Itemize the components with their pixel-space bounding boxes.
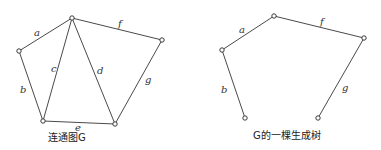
tree-edge-a xyxy=(222,16,274,50)
connected-graph-caption: 连通图G xyxy=(48,129,86,144)
tree-edge-g xyxy=(318,38,364,118)
tree-edge-label-f: f xyxy=(319,16,326,27)
edge-label-f: f xyxy=(117,18,124,29)
tree-edge-f xyxy=(274,16,364,38)
connected-graph: a b c d e f g xyxy=(17,16,164,133)
edge-label-d: d xyxy=(97,65,103,76)
vertex-top xyxy=(70,16,74,20)
tree-vertex-right xyxy=(362,36,366,40)
tree-vertex-bottom-right xyxy=(316,116,320,120)
tree-vertex-top xyxy=(272,14,276,18)
edge-d xyxy=(72,18,115,124)
vertex-left xyxy=(17,49,21,53)
vertex-right xyxy=(160,38,164,42)
tree-edge-label-a: a xyxy=(239,24,245,35)
tree-vertex-bottom-left xyxy=(243,116,247,120)
vertex-bottom-left xyxy=(41,119,45,123)
spanning-tree: a b f g xyxy=(220,14,366,120)
edge-label-a: a xyxy=(34,27,40,38)
tree-edge-label-g: g xyxy=(342,82,348,93)
edge-label-b: b xyxy=(20,84,26,95)
tree-edge-label-b: b xyxy=(221,84,227,95)
edge-g xyxy=(115,40,162,124)
spanning-tree-caption: G的一棵生成树 xyxy=(253,127,321,142)
edge-label-g: g xyxy=(145,74,151,85)
vertex-bottom-right xyxy=(113,122,117,126)
edge-label-c: c xyxy=(51,63,57,74)
diagram-canvas: a b c d e f g a b f g xyxy=(0,0,381,150)
tree-vertex-left xyxy=(220,48,224,52)
edge-f xyxy=(72,18,162,40)
